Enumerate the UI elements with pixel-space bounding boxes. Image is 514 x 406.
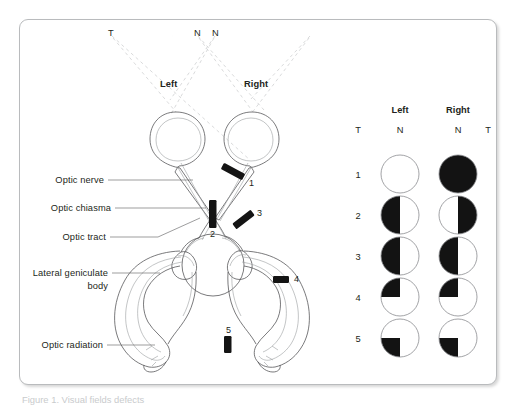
field-circle-right-2 <box>439 196 477 234</box>
field-circle-right-4 <box>439 278 477 316</box>
field-circle-left-4 <box>381 278 419 316</box>
field-axis-label-T-right: T <box>482 125 494 135</box>
lesion-number-4: 4 <box>294 274 299 284</box>
field-axis-label-N-left: N <box>394 125 406 135</box>
visual-field-chart <box>381 155 477 357</box>
lesion-marker-1 <box>221 163 245 180</box>
label-optic-chiasma: Optic chiasma <box>0 203 111 213</box>
field-axis-label-T-left: T <box>352 125 364 135</box>
field-circle-left-1 <box>381 155 419 193</box>
lesion-number-5: 5 <box>226 325 231 335</box>
field-defect-area <box>439 237 458 275</box>
field-row-number-2: 2 <box>352 211 364 221</box>
figure-caption: Figure 1. Visual fields defects <box>22 394 502 405</box>
field-circle-right-1 <box>439 155 477 193</box>
lesion-number-2: 2 <box>210 229 215 239</box>
label-optic-nerve: Optic nerve <box>0 175 104 185</box>
field-axis-label-N-right: N <box>452 125 464 135</box>
field-defect-area <box>381 237 400 275</box>
field-axis-N-right: N <box>212 28 219 38</box>
field-header-right: Right <box>433 105 483 115</box>
left-eye <box>150 112 214 221</box>
lesion-number-1: 1 <box>249 178 254 188</box>
field-row-number-1: 1 <box>352 170 364 180</box>
eye-label-left: Left <box>160 79 177 89</box>
eye-label-right: Right <box>244 79 268 89</box>
field-circle-left-3 <box>381 237 419 275</box>
lesion-marker-2 <box>209 200 217 228</box>
field-circle-right-3 <box>439 237 477 275</box>
label-optic-radiation: Optic radiation <box>0 340 103 350</box>
label-lateral-geniculate-body-line2: body <box>0 281 108 291</box>
field-row-number-5: 5 <box>352 334 364 344</box>
field-row-number-4: 4 <box>352 293 364 303</box>
label-lateral-geniculate-body: Lateral geniculate <box>0 268 108 278</box>
optic-radiations <box>115 251 310 372</box>
lesion-number-3: 3 <box>257 208 262 218</box>
figure-canvas: .o{fill:none;stroke:#4e4e50;stroke-width… <box>0 0 514 406</box>
field-circle-right-5 <box>439 319 477 357</box>
field-circle-left-2 <box>381 196 419 234</box>
label-leader-lines <box>107 180 206 345</box>
lesion-marker-3 <box>232 210 254 230</box>
field-axis-N-left: N <box>194 28 201 38</box>
field-defect-area <box>381 196 400 234</box>
field-defect-area <box>458 196 477 234</box>
field-circle-left-5 <box>381 319 419 357</box>
label-optic-tract: Optic tract <box>0 232 106 242</box>
lesion-marker-4 <box>273 276 289 283</box>
light-ray-lines <box>112 36 310 160</box>
lesion-marker-5 <box>224 336 232 353</box>
field-header-left: Left <box>375 105 425 115</box>
field-row-number-3: 3 <box>352 252 364 262</box>
field-axis-T-left: T <box>108 28 114 38</box>
